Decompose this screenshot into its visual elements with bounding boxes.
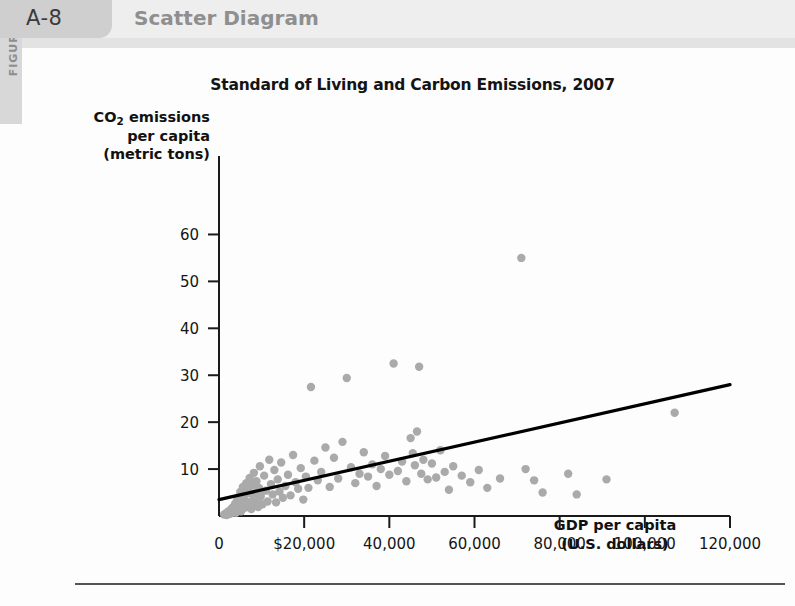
scatter-point bbox=[289, 451, 297, 459]
plot-canvas: 1020304050600$20,00040,00060,00080,00010… bbox=[0, 46, 795, 566]
y-tick-label: 20 bbox=[180, 414, 199, 432]
scatter-point bbox=[417, 470, 425, 478]
x-tick-label: 0 bbox=[214, 535, 224, 553]
scatter-points-group bbox=[220, 254, 679, 520]
scatter-point bbox=[573, 490, 581, 498]
scatter-point bbox=[564, 470, 572, 478]
scatter-point bbox=[297, 464, 305, 472]
y-tick-label: 50 bbox=[180, 273, 199, 291]
scatter-point bbox=[530, 476, 538, 484]
scatter-point bbox=[496, 474, 504, 482]
scatter-point bbox=[419, 455, 427, 463]
scatter-point bbox=[351, 479, 359, 487]
scatter-point bbox=[394, 467, 402, 475]
scatter-chart: Standard of Living and Carbon Emissions,… bbox=[0, 46, 795, 566]
scatter-point bbox=[670, 409, 678, 417]
scatter-point bbox=[338, 438, 346, 446]
footnote-divider bbox=[75, 583, 785, 585]
scatter-point bbox=[343, 374, 351, 382]
trend-line bbox=[219, 385, 730, 500]
y-tick-label: 40 bbox=[180, 320, 199, 338]
scatter-point bbox=[263, 497, 271, 505]
scatter-point bbox=[602, 475, 610, 483]
scatter-point bbox=[466, 478, 474, 486]
scatter-point bbox=[538, 488, 546, 496]
x-tick-label: 120,000 bbox=[699, 535, 761, 553]
scatter-point bbox=[402, 477, 410, 485]
scatter-point bbox=[432, 473, 440, 481]
scatter-point bbox=[415, 363, 423, 371]
scatter-point bbox=[377, 465, 385, 473]
scatter-point bbox=[256, 462, 264, 470]
scatter-point bbox=[294, 485, 302, 493]
figure-caption: Scatter Diagram bbox=[134, 6, 319, 30]
scatter-point bbox=[423, 475, 431, 483]
y-tick-label: 60 bbox=[180, 226, 199, 244]
scatter-point bbox=[321, 443, 329, 451]
footnote-text-cropped bbox=[78, 597, 778, 606]
scatter-point bbox=[521, 465, 529, 473]
figure-number: A-8 bbox=[26, 6, 62, 30]
scatter-point bbox=[334, 474, 342, 482]
scatter-point bbox=[385, 471, 393, 479]
scatter-point bbox=[406, 434, 414, 442]
scatter-point bbox=[449, 462, 457, 470]
scatter-point bbox=[355, 470, 363, 478]
scatter-point bbox=[299, 495, 307, 503]
scatter-point bbox=[272, 498, 280, 506]
scatter-point bbox=[277, 458, 285, 466]
scatter-point bbox=[440, 468, 448, 476]
scatter-point bbox=[381, 452, 389, 460]
scatter-point bbox=[270, 466, 278, 474]
scatter-point bbox=[458, 471, 466, 479]
x-tick-label: $20,000 bbox=[273, 535, 335, 553]
scatter-point bbox=[326, 483, 334, 491]
scatter-point bbox=[364, 472, 372, 480]
y-tick-label: 10 bbox=[180, 461, 199, 479]
scatter-point bbox=[360, 448, 368, 456]
scatter-point bbox=[428, 459, 436, 467]
scatter-point bbox=[483, 484, 491, 492]
scatter-point bbox=[411, 461, 419, 469]
scatter-point bbox=[250, 469, 258, 477]
x-tick-label: 80,000 bbox=[533, 535, 586, 553]
scatter-point bbox=[284, 471, 292, 479]
scatter-point bbox=[445, 486, 453, 494]
scatter-point bbox=[475, 466, 483, 474]
scatter-point bbox=[310, 456, 318, 464]
y-tick-label: 30 bbox=[180, 367, 199, 385]
scatter-point bbox=[265, 455, 273, 463]
x-tick-label: 60,000 bbox=[448, 535, 501, 553]
scatter-point bbox=[260, 471, 268, 479]
scatter-point bbox=[517, 254, 525, 262]
scatter-point bbox=[413, 427, 421, 435]
scatter-point bbox=[330, 454, 338, 462]
scatter-point bbox=[279, 494, 287, 502]
x-tick-label: 40,000 bbox=[363, 535, 416, 553]
scatter-point bbox=[307, 383, 315, 391]
scatter-point bbox=[286, 491, 294, 499]
scatter-point bbox=[274, 475, 282, 483]
x-tick-label: 100,000 bbox=[614, 535, 676, 553]
scatter-point bbox=[372, 482, 380, 490]
scatter-point bbox=[389, 359, 397, 367]
scatter-point bbox=[304, 484, 312, 492]
